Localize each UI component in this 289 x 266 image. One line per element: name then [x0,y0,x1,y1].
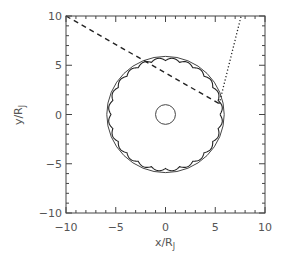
io-orbit-series [107,56,224,172]
x-tick-label: −10 [54,221,77,234]
y-axis-label: y/RJ [12,105,27,125]
x-tick-label: 10 [258,221,272,234]
y-tick-label: 5 [55,59,62,72]
y-tick-label: 0 [55,109,62,122]
x-tick-label: −5 [108,221,124,234]
x-tick-label: 5 [212,221,219,234]
axis-ticks [66,16,265,213]
dotted-line-series [219,16,241,104]
chart-canvas: −10−50510 −10−50510 x/RJ y/RJ [0,0,289,266]
y-tick-label: −5 [46,158,62,171]
y-tick-label: −10 [39,207,62,220]
plot-frame [66,16,265,213]
jupiter-series [156,105,176,125]
dashed-line-series [66,16,219,104]
x-axis-label: x/RJ [155,236,175,251]
y-tick-label: 10 [48,10,62,23]
scalloped-ring-series [109,58,223,170]
y-tick-labels: −10−50510 [39,10,62,220]
plot-area [66,16,241,173]
x-tick-label: 0 [162,221,169,234]
x-tick-labels: −10−50510 [54,221,272,234]
